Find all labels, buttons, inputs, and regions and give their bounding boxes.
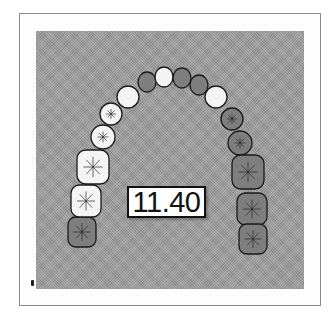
tooth-r-premolar-1 xyxy=(221,108,243,130)
tooth-r-molar-1 xyxy=(232,155,264,189)
tooth-r-lateral-incisor xyxy=(190,75,208,95)
tooth-l-central-incisor xyxy=(155,67,173,87)
tooth-r-central-incisor xyxy=(173,68,191,88)
measurement-value: 11.40 xyxy=(133,188,201,217)
measurement-label-box: 11.40 xyxy=(127,186,206,218)
tooth-l-molar-1 xyxy=(77,150,109,184)
tooth-l-canine xyxy=(117,86,139,108)
tooth-r-molar-2 xyxy=(237,193,267,225)
tooth-l-molar-2 xyxy=(71,185,101,217)
tooth-l-lateral-incisor xyxy=(138,72,156,92)
tooth-l-premolar-2 xyxy=(91,125,115,149)
tooth-l-molar-3 xyxy=(68,217,96,247)
tooth-r-premolar-2 xyxy=(228,131,252,155)
dental-arch xyxy=(0,0,334,321)
tooth-l-premolar-1 xyxy=(100,103,122,125)
tooth-r-canine xyxy=(205,86,227,108)
tooth-r-molar-3 xyxy=(239,224,267,254)
